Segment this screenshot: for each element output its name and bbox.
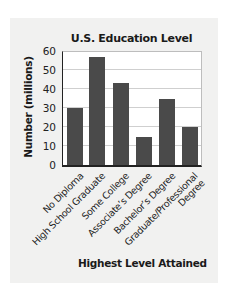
y-tick-label: 0 xyxy=(32,159,56,171)
gridline xyxy=(63,126,201,127)
x-axis-label: Highest Level Attained xyxy=(78,257,188,269)
y-tick-label: 10 xyxy=(32,140,56,152)
y-tick-label: 50 xyxy=(32,64,56,76)
bar xyxy=(182,127,198,165)
chart-title: U.S. Education Level xyxy=(0,32,233,45)
y-tick-label: 20 xyxy=(32,121,56,133)
y-tick-label: 30 xyxy=(32,102,56,114)
bar xyxy=(136,137,152,166)
gridline xyxy=(63,107,201,108)
gridline xyxy=(63,69,201,70)
y-tick-label: 60 xyxy=(32,45,56,57)
bar xyxy=(113,83,129,165)
gridline xyxy=(63,145,201,146)
gridline xyxy=(63,88,201,89)
bar xyxy=(89,57,105,165)
bar xyxy=(159,99,175,166)
y-tick-label: 40 xyxy=(32,83,56,95)
plot-area xyxy=(62,51,202,167)
bar xyxy=(67,108,83,165)
